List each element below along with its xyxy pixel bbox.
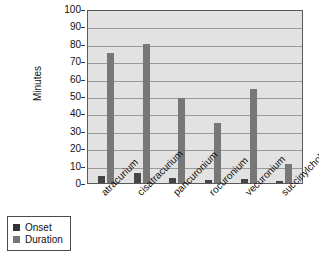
bar-onset <box>276 181 283 183</box>
y-axis-tick-mark <box>81 132 85 133</box>
y-axis-tick-mark <box>81 184 85 185</box>
bar-chart: Minutes 1009080706050403020100 atracuriu… <box>0 0 319 266</box>
bar-onset <box>241 179 248 183</box>
y-axis-tick-label: 50 <box>70 92 81 102</box>
legend-swatch-duration-icon <box>13 236 20 243</box>
bar-onset <box>98 176 105 183</box>
bar-duration <box>250 89 257 183</box>
bar-onset <box>134 173 141 183</box>
y-axis-tick-mark <box>81 27 85 28</box>
bar-groups <box>88 11 302 183</box>
legend-label-duration: Duration <box>25 234 63 245</box>
bar-group <box>231 11 267 183</box>
bar-duration <box>143 44 150 183</box>
legend-swatch-onset-icon <box>13 224 20 231</box>
x-axis-tick-labels: atracuriumcisatracuriumpancuroniumrocuro… <box>87 184 303 266</box>
y-axis-tick-mark <box>81 62 85 63</box>
y-axis-tick-label: 20 <box>70 144 81 154</box>
bar-group <box>88 11 124 183</box>
y-axis-tick-label: 60 <box>70 75 81 85</box>
bar-onset <box>169 178 176 183</box>
y-axis-tick-mark <box>81 167 85 168</box>
y-axis-tick-mark <box>81 149 85 150</box>
bar-duration <box>107 53 114 184</box>
y-axis-tick-label: 40 <box>70 109 81 119</box>
legend-item-onset: Onset <box>13 222 63 233</box>
legend-label-onset: Onset <box>25 222 52 233</box>
y-axis-tick-label: 10 <box>70 162 81 172</box>
y-axis-tick-label: 100 <box>64 5 81 15</box>
y-axis-tick-mark <box>81 97 85 98</box>
y-axis-tick-mark <box>81 10 85 11</box>
y-axis-tick-label: 70 <box>70 57 81 67</box>
bar-group <box>124 11 160 183</box>
y-axis-tick-label: 30 <box>70 127 81 137</box>
bar-duration <box>178 98 185 183</box>
legend: Onset Duration <box>7 216 71 251</box>
y-axis-tick-labels: 1009080706050403020100 <box>55 0 85 194</box>
bar-onset <box>205 180 212 183</box>
y-axis-tick-label: 90 <box>70 22 81 32</box>
legend-item-duration: Duration <box>13 234 63 245</box>
y-axis-title: Minutes <box>32 44 43 124</box>
y-axis-tick-mark <box>81 114 85 115</box>
y-axis-tick-mark <box>81 45 85 46</box>
plot-area <box>87 10 303 184</box>
y-axis-tick-label: 80 <box>70 40 81 50</box>
y-axis-tick-mark <box>81 80 85 81</box>
